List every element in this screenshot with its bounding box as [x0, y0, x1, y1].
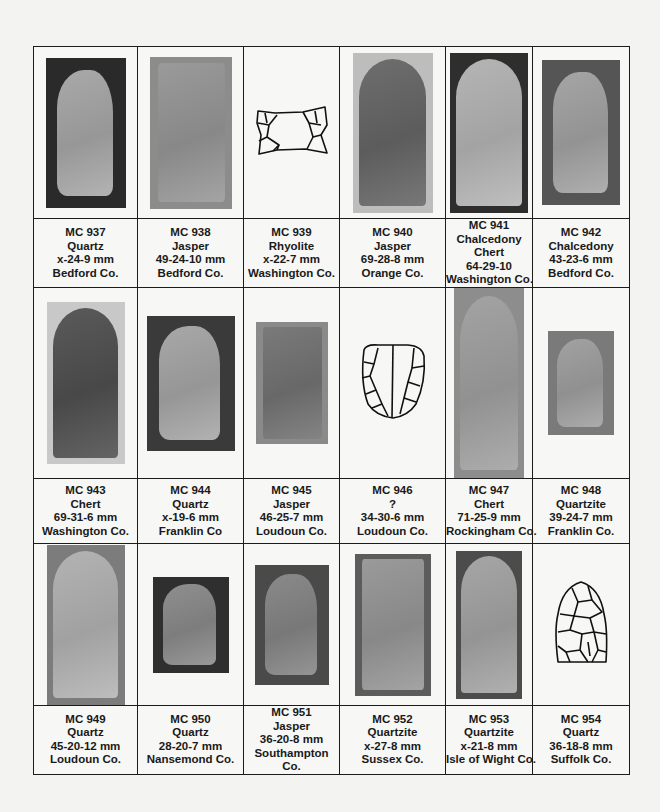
catalog-id: MC 954	[533, 713, 629, 727]
material: Quartzite	[533, 498, 629, 512]
artifact-image-cell	[138, 288, 244, 479]
artifact-photo	[355, 554, 431, 696]
projectile-point	[557, 339, 603, 426]
catalog-page: MC 937Quartzx-24-9 mmBedford Co.MC 938Ja…	[0, 0, 660, 812]
artifact-image-cell	[138, 47, 244, 219]
material: Jasper	[244, 720, 339, 734]
material: Chert	[446, 498, 532, 512]
caption-row: MC 937Quartzx-24-9 mmBedford Co.MC 938Ja…	[34, 219, 630, 288]
county: Franklin Co	[138, 525, 243, 539]
artifact-caption: MC 937Quartzx-24-9 mmBedford Co.	[34, 219, 138, 288]
artifact-image-cell	[446, 288, 533, 479]
artifact-photo	[456, 551, 522, 699]
dimensions: 45-20-12 mm	[34, 740, 137, 754]
material: Jasper	[244, 498, 339, 512]
artifact-photo	[150, 57, 232, 209]
artifact-image-cell	[446, 47, 533, 219]
dimensions: 36-18-8 mm	[533, 740, 629, 754]
caption-row: MC 943Chert69-31-6 mmWashington Co.MC 94…	[34, 479, 630, 544]
projectile-point	[359, 59, 426, 206]
artifact-photo	[454, 288, 524, 478]
county-continued: Co.	[244, 760, 339, 774]
dimensions: 36-20-8 mm	[244, 733, 339, 747]
artifact-photo	[147, 316, 235, 451]
county: Washington Co.	[244, 267, 339, 281]
projectile-point	[265, 574, 317, 675]
material: Jasper	[138, 240, 243, 254]
artifact-photo	[256, 322, 328, 444]
catalog-id: MC 944	[138, 484, 243, 498]
artifact-image-cell	[138, 544, 244, 706]
material: Quartz	[34, 240, 137, 254]
county: Bedford Co.	[34, 267, 137, 281]
county: Washington Co.	[34, 525, 137, 539]
projectile-point	[158, 63, 225, 203]
county: Bedford Co.	[138, 267, 243, 281]
dimensions: x-21-8 mm	[446, 740, 532, 754]
projectile-point	[163, 584, 216, 665]
catalog-id: MC 937	[34, 226, 137, 240]
artifact-image-cell	[340, 544, 446, 706]
projectile-point	[362, 559, 424, 690]
dimensions: x-22-7 mm	[244, 253, 339, 267]
material: Chalcedony	[446, 233, 532, 247]
catalog-id: MC 948	[533, 484, 629, 498]
catalog-id: MC 943	[34, 484, 137, 498]
artifact-image-cell	[34, 47, 138, 219]
artifact-caption: MC 953Quartzitex-21-8 mmIsle of Wight Co…	[446, 706, 533, 775]
artifact-caption: MC 949Quartz45-20-12 mmLoudoun Co.	[34, 706, 138, 775]
artifact-photo	[47, 302, 125, 464]
artifact-caption: MC 941ChalcedonyChert64-29-10Washington …	[446, 219, 533, 288]
artifact-photo	[255, 565, 329, 685]
dimensions: 71-25-9 mm	[446, 511, 532, 525]
material: Quartz	[533, 726, 629, 740]
projectile-point	[53, 308, 119, 457]
catalog-id: MC 953	[446, 713, 532, 727]
dimensions: 43-23-6 mm	[533, 253, 629, 267]
artifact-caption: MC 951Jasper36-20-8 mmSouthamptonCo.	[244, 706, 340, 775]
county: Southampton	[244, 747, 339, 761]
dimensions: 28-20-7 mm	[138, 740, 243, 754]
material: Rhyolite	[244, 240, 339, 254]
artifact-image-cell	[34, 288, 138, 479]
projectile-point	[553, 72, 608, 194]
artifact-photo	[542, 60, 620, 205]
artifact-caption: MC 948Quartzite39-24-7 mmFranklin Co.	[533, 479, 630, 544]
artifact-photo	[153, 577, 229, 673]
artifact-photo	[47, 545, 125, 705]
county: Loudoun Co.	[340, 525, 445, 539]
artifact-photo	[46, 58, 126, 208]
material: Quartz	[138, 498, 243, 512]
dimensions: 64-29-10	[446, 260, 532, 274]
catalog-id: MC 938	[138, 226, 243, 240]
artifact-image-cell	[533, 288, 630, 479]
catalog-id: MC 946	[340, 484, 445, 498]
artifact-image-cell	[533, 47, 630, 219]
artifact-image-cell	[340, 288, 446, 479]
caption-row: MC 949Quartz45-20-12 mmLoudoun Co.MC 950…	[34, 706, 630, 775]
catalog-id: MC 942	[533, 226, 629, 240]
material: Jasper	[340, 240, 445, 254]
artifact-caption: MC 943Chert69-31-6 mmWashington Co.	[34, 479, 138, 544]
catalog-id: MC 952	[340, 713, 445, 727]
material: Quartz	[34, 726, 137, 740]
county: Nansemond Co.	[138, 753, 243, 767]
artifact-caption: MC 954Quartz36-18-8 mmSuffolk Co.	[533, 706, 630, 775]
line-drawing-point-icon	[358, 342, 428, 420]
county: Washington Co.	[446, 273, 532, 287]
projectile-point	[159, 326, 221, 439]
county: Suffolk Co.	[533, 753, 629, 767]
catalog-id: MC 945	[244, 484, 339, 498]
artifact-image-cell	[533, 544, 630, 706]
material: Quartzite	[340, 726, 445, 740]
projectile-point	[460, 296, 519, 471]
projectile-point	[53, 551, 119, 698]
line-drawing-point-icon	[255, 105, 329, 157]
dimensions: x-27-8 mm	[340, 740, 445, 754]
dimensions: 34-30-6 mm	[340, 511, 445, 525]
artifact-caption: MC 945Jasper46-25-7 mmLoudoun Co.	[244, 479, 340, 544]
image-row	[34, 288, 630, 479]
artifact-caption: MC 942Chalcedony43-23-6 mmBedford Co.	[533, 219, 630, 288]
catalog-id: MC 947	[446, 484, 532, 498]
county: Orange Co.	[340, 267, 445, 281]
